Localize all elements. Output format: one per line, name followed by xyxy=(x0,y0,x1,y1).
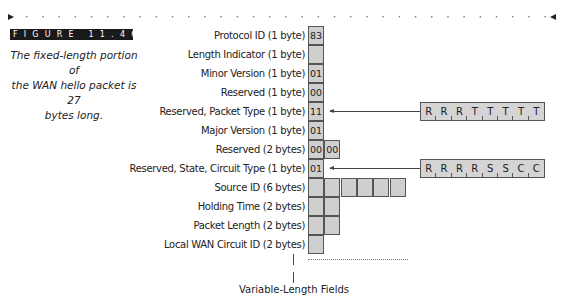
field-label: Packet Length (2 bytes) xyxy=(193,216,305,235)
bit-map: RRRTTTTT xyxy=(420,102,545,121)
bit: R xyxy=(467,160,482,177)
byte-cell xyxy=(390,178,406,197)
field-label: Minor Version (1 byte) xyxy=(201,64,305,83)
field-label: Source ID (6 bytes) xyxy=(214,178,305,197)
figure-caption: The fixed-length portion of the WAN hell… xyxy=(6,48,142,123)
byte-cell: 01 xyxy=(308,121,324,140)
continuation-bar xyxy=(293,272,294,283)
bit: T xyxy=(529,103,544,120)
byte-cell xyxy=(341,178,357,197)
dotted-rule xyxy=(0,12,565,24)
byte-cell xyxy=(373,178,389,197)
byte-cell xyxy=(357,178,373,197)
bit: S xyxy=(483,160,498,177)
byte-cell: 11 xyxy=(308,102,324,121)
bit: S xyxy=(498,160,513,177)
byte-cell xyxy=(308,45,324,64)
field-label: Reserved, Packet Type (1 byte) xyxy=(159,102,305,121)
bit: R xyxy=(436,103,451,120)
figure-label: FIGURE 11.46 xyxy=(10,29,133,40)
continuation-bar xyxy=(293,254,294,265)
bit: R xyxy=(452,160,467,177)
field-label: Holding Time (2 bytes) xyxy=(198,197,305,216)
byte-cell xyxy=(324,178,340,197)
bit: T xyxy=(467,103,482,120)
byte-cell xyxy=(308,197,324,216)
bit-map: RRRRSSCC xyxy=(420,159,545,178)
field-label: Reserved (2 bytes) xyxy=(216,140,305,159)
field-label: Protocol ID (1 byte) xyxy=(214,26,305,45)
byte-cell: 00 xyxy=(308,83,324,102)
field-label: Local WAN Circuit ID (2 bytes) xyxy=(164,235,305,254)
bit: R xyxy=(452,103,467,120)
bit: R xyxy=(421,103,436,120)
byte-cell xyxy=(308,216,324,235)
bit: T xyxy=(498,103,513,120)
byte-cell: 00 xyxy=(308,140,324,159)
arrow-icon xyxy=(330,111,420,112)
bit: T xyxy=(513,103,528,120)
field-label: Major Version (1 byte) xyxy=(201,121,305,140)
bit: T xyxy=(483,103,498,120)
bit: R xyxy=(421,160,436,177)
bit: C xyxy=(513,160,528,177)
byte-cell: 01 xyxy=(308,159,324,178)
byte-cell xyxy=(324,216,340,235)
variable-length-label: Variable-Length Fields xyxy=(0,284,565,295)
byte-cell xyxy=(308,178,324,197)
continuation-dotted-line xyxy=(308,259,408,260)
byte-cell: 00 xyxy=(324,140,340,159)
caption-line: bytes long. xyxy=(6,108,142,123)
caption-line: the WAN hello packet is 27 xyxy=(6,78,142,108)
bit: R xyxy=(436,160,451,177)
byte-cell xyxy=(324,197,340,216)
field-label: Reserved (1 byte) xyxy=(221,83,305,102)
byte-cell xyxy=(308,235,324,254)
byte-cell: 01 xyxy=(308,64,324,83)
bit: C xyxy=(529,160,544,177)
byte-cell: 83 xyxy=(308,26,324,45)
field-label: Length Indicator (1 byte) xyxy=(188,45,305,64)
caption-line: The fixed-length portion of xyxy=(6,48,142,78)
arrow-icon xyxy=(330,168,420,169)
field-label: Reserved, State, Circuit Type (1 byte) xyxy=(129,159,305,178)
